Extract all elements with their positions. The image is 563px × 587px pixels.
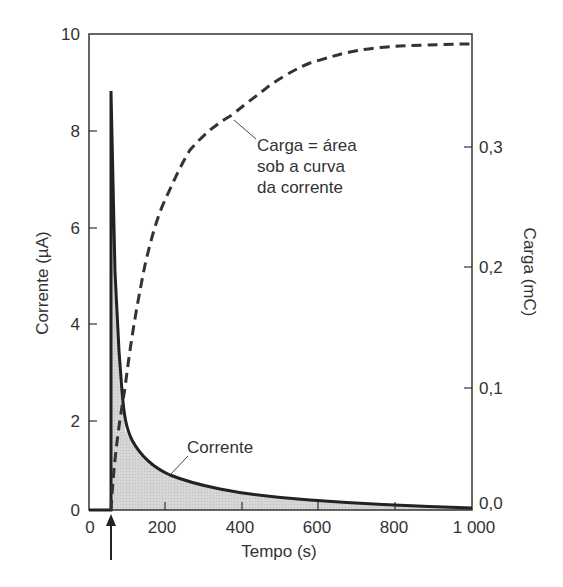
- charge-curve: [111, 44, 472, 510]
- y-axis-label-left: Corrente (µA): [33, 231, 52, 334]
- y-tick-4: 4: [71, 315, 80, 334]
- charge-annotation-leader: [234, 120, 256, 139]
- start-time-arrow-icon: [106, 514, 116, 560]
- x-tick-800: 800: [380, 518, 408, 537]
- current-annotation-leader: [170, 456, 188, 475]
- charge-annotation-line1: Carga = área: [257, 136, 357, 155]
- x-axis-label: Tempo (s): [241, 542, 317, 561]
- x-tick-1000: 1 000: [453, 518, 496, 537]
- charge-annotation-line2: sob a curva: [257, 157, 345, 176]
- right-tick-2: 0,2: [479, 258, 503, 277]
- x-tick-200: 200: [148, 518, 176, 537]
- charge-annotation-line3: da corrente: [257, 178, 343, 197]
- right-tick-3: 0,3: [479, 138, 503, 157]
- y-axis-label-right: Carga (mC): [520, 228, 539, 317]
- plot-frame: [89, 34, 472, 510]
- right-tick-0: 0,0: [479, 494, 503, 513]
- right-ticks: [464, 147, 472, 388]
- y-tick-8: 8: [71, 122, 80, 141]
- y-tick-2: 2: [71, 412, 80, 431]
- chart: Carga = área sob a curva da corrente Cor…: [0, 0, 563, 587]
- x-tick-0: 0: [85, 518, 94, 537]
- right-tick-1: 0,1: [479, 379, 503, 398]
- left-ticks: [89, 131, 97, 421]
- y-tick-0: 0: [71, 501, 80, 520]
- x-tick-600: 600: [303, 518, 331, 537]
- x-tick-400: 400: [226, 518, 254, 537]
- y-tick-10: 10: [61, 25, 80, 44]
- current-annotation: Corrente: [187, 438, 253, 457]
- y-tick-6: 6: [71, 219, 80, 238]
